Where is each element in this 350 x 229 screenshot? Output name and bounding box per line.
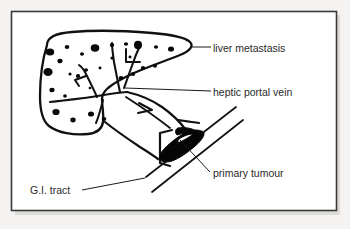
met-spot [131, 72, 135, 76]
met-spot [110, 57, 113, 60]
met-spot [102, 117, 107, 121]
met-spot [154, 45, 158, 49]
met-spot [99, 67, 102, 70]
met-spot [68, 73, 71, 76]
met-spot [57, 59, 62, 64]
label-liver-metastasis: liver metastasis [213, 42, 285, 54]
figure-frame [12, 12, 337, 211]
met-spot [46, 48, 54, 55]
liver-metastasis-figure: liver metastasis heptic portal vein prim… [0, 0, 350, 229]
label-heptic-portal-vein: heptic portal vein [213, 86, 293, 98]
met-spot [65, 45, 70, 49]
met-spot [89, 87, 92, 90]
diagram-canvas: liver metastasis heptic portal vein prim… [0, 0, 350, 229]
met-spot [88, 111, 94, 116]
met-spot [129, 56, 132, 59]
met-spot [134, 41, 142, 49]
met-spot [153, 64, 157, 68]
label-gi-tract: G.I. tract [30, 184, 70, 196]
met-spot [49, 88, 54, 93]
met-spot [70, 118, 75, 123]
met-spot [124, 42, 128, 46]
met-spot [168, 46, 174, 51]
met-spot [43, 68, 52, 76]
met-spot [76, 74, 80, 78]
met-spot [63, 94, 67, 97]
met-spot [91, 44, 100, 51]
met-spot [119, 76, 124, 80]
met-spot [110, 43, 114, 47]
met-spot [52, 109, 59, 115]
met-spot [84, 68, 88, 72]
met-spot [80, 52, 84, 55]
label-primary-tumour: primary tumour [213, 167, 284, 179]
met-spot [141, 66, 145, 70]
